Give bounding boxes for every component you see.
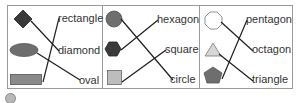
label-rectangle: rectangle <box>58 12 103 24</box>
label-oval: oval <box>79 74 99 86</box>
square-shape <box>108 71 122 85</box>
label-hexagon: hexagon <box>157 13 199 25</box>
circle-shape <box>106 11 122 27</box>
hexagon-shape <box>105 42 121 56</box>
oval-shape <box>10 44 38 57</box>
label-circle: circle <box>170 73 196 85</box>
audio-play-icon[interactable] <box>5 93 16 103</box>
label-triangle: triangle <box>252 73 288 85</box>
octagon-shape <box>205 12 222 29</box>
label-diamond: diamond <box>58 44 100 56</box>
label-square: square <box>165 43 199 55</box>
label-octagon: octagon <box>252 43 291 55</box>
rectangle-shape <box>11 75 42 85</box>
label-pentagon: pentagon <box>246 13 292 25</box>
matching-diagram: rectangle diamond oval hexagon square ci… <box>0 0 297 103</box>
